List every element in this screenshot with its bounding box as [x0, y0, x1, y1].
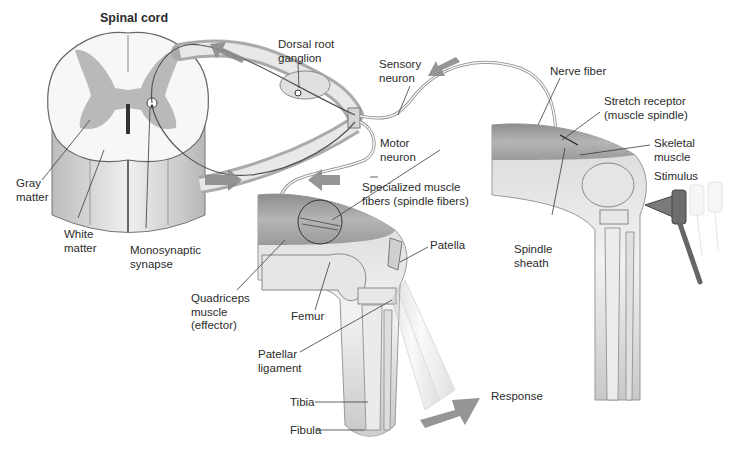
- label-dorsal-root-ganglion: Dorsal root ganglion: [278, 38, 334, 65]
- spinal-nerve-junction: [348, 108, 360, 128]
- ganglion-cell-icon: [295, 90, 301, 96]
- fibula-bone: [384, 310, 392, 430]
- label-spinal-cord: Spinal cord: [100, 12, 168, 26]
- label-response: Response: [491, 390, 543, 404]
- label-quadriceps-muscle: Quadriceps muscle (effector): [191, 292, 250, 333]
- tibia-bone: [362, 305, 382, 430]
- label-stretch-receptor: Stretch receptor (muscle spindle): [604, 95, 688, 122]
- label-skeletal-muscle: Skeletal muscle: [654, 137, 695, 164]
- central-canal: [126, 104, 130, 134]
- label-tibia: Tibia: [290, 396, 315, 410]
- label-patella: Patella: [430, 239, 465, 253]
- label-monosynaptic-synapse: Monosynaptic synapse: [130, 244, 201, 271]
- label-sensory-neuron: Sensory neuron: [379, 58, 421, 85]
- reflex-arc-diagram: [0, 0, 734, 456]
- label-nerve-fiber: Nerve fiber: [550, 65, 606, 79]
- label-fibula: Fibula: [290, 424, 321, 438]
- label-white-matter: White matter: [64, 228, 97, 255]
- label-femur: Femur: [291, 310, 324, 324]
- label-spindle-sheath: Spindle sheath: [514, 243, 552, 270]
- femur-bone: [262, 254, 366, 301]
- label-motor-neuron: Motor neuron: [380, 137, 416, 164]
- label-gray-matter: Gray matter: [16, 177, 49, 204]
- label-stimulus: Stimulus: [654, 170, 698, 184]
- label-patellar-ligament: Patellar ligament: [258, 348, 301, 375]
- spinal-cord: [48, 32, 209, 232]
- reflex-hammer-icon: [645, 182, 722, 282]
- label-specialized-muscle-fibers: Specialized muscle fibers (spindle fiber…: [362, 181, 469, 208]
